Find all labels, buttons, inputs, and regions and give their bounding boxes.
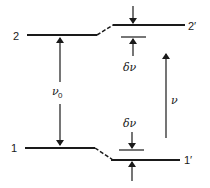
level-2-label: 2 — [13, 30, 19, 42]
delta-nu-lower-label: δν — [123, 117, 137, 130]
level-2-connector — [97, 25, 113, 35]
diagram-svg: 2 2′ 1 1′ ν 0 δν δν ν — [0, 0, 210, 188]
level-1-connector — [95, 148, 113, 160]
level-1-prime-label: 1′ — [184, 154, 192, 166]
level-1-label: 1 — [11, 142, 17, 154]
nu-label: ν — [171, 94, 178, 107]
level-2-prime-label: 2′ — [188, 20, 196, 32]
delta-nu-upper-label: δν — [123, 61, 137, 74]
energy-level-diagram: 2 2′ 1 1′ ν 0 δν δν ν — [0, 0, 210, 188]
nu0-subscript: 0 — [58, 91, 63, 100]
